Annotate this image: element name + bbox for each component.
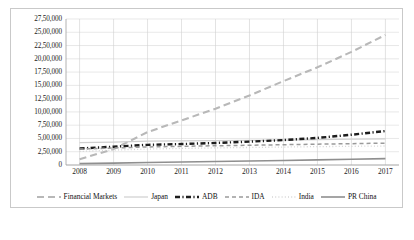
x-axis-tick-label: 2016 [344,167,359,176]
legend-item[interactable]: PR China [321,193,377,201]
series-line [80,139,386,143]
x-axis-tick-label: 2015 [310,167,325,176]
series-line [80,159,386,164]
legend-item[interactable]: Financial Markets [37,193,118,201]
legend-label: PR China [348,193,377,200]
x-axis-tick-label: 2011 [174,167,189,176]
legend-line-swatch [321,193,345,201]
x-axis-tick-label: 2014 [276,167,291,176]
legend-line-swatch [124,193,148,201]
legend-label: Financial Markets [64,193,118,200]
legend-line-swatch [272,193,296,201]
chart-legend: Financial MarketsJapanADBIDAIndiaPR Chin… [10,188,403,206]
legend-label: IDA [252,193,265,200]
x-axis-tick-label: 2012 [208,167,223,176]
x-axis-tick-label: 2010 [140,167,155,176]
legend-label: India [299,193,314,200]
x-axis-tick-label: 2017 [378,167,393,176]
legend-line-swatch [225,193,249,201]
x-axis-tick-label: 2013 [242,167,257,176]
legend-item[interactable]: IDA [225,193,265,201]
legend-label: ADB [202,193,218,200]
legend-item[interactable]: Japan [124,193,168,201]
legend-item[interactable]: India [272,193,314,201]
series-layer [80,35,386,164]
legend-line-swatch [175,193,199,201]
legend-label: Japan [151,193,168,200]
legend-line-swatch [37,193,61,201]
legend-item[interactable]: ADB [175,193,218,201]
x-axis-tick-label: 2008 [72,167,87,176]
x-axis-tick-label: 2009 [106,167,121,176]
